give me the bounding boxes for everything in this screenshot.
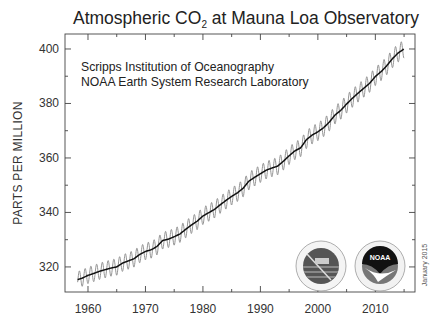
date-stamp: January 2015 [421,244,429,287]
x-tick-label: 1980 [190,302,217,316]
annotation-noaa: NOAA Earth System Research Laboratory [81,75,310,89]
x-tick-label: 2010 [362,302,389,316]
co2-chart: Atmospheric CO2 at Mauna Loa Observatory… [0,0,433,329]
chart-title: Atmospheric CO2 at Mauna Loa Observatory [73,8,419,30]
y-tick-label: 400 [39,42,59,56]
y-tick-label: 380 [39,96,59,110]
x-tick-label: 2000 [305,302,332,316]
noaa-logo: NOAA [355,241,405,291]
y-tick-label: 320 [39,260,59,274]
x-tick-label: 1990 [247,302,274,316]
noaa-logo-text: NOAA [370,254,391,261]
scripps-ship-icon [315,258,329,264]
x-tick-label: 1960 [75,302,102,316]
scripps-seal-wave [303,266,339,268]
y-tick-label: 340 [39,205,59,219]
y-axis-label: PARTS PER MILLION [11,101,25,224]
y-tick-label: 360 [39,151,59,165]
x-tick-label: 1970 [132,302,159,316]
annotation-scripps: Scripps Institution of Oceanography [81,60,275,74]
scripps-logo [296,241,346,291]
